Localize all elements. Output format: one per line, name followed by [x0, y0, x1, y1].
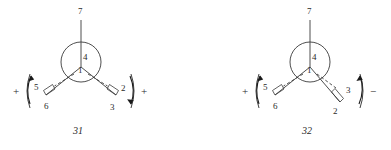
atom-label-2: 2 [121, 83, 126, 93]
wedge-terminus-3 [107, 85, 119, 96]
bond-to-atom-2 [88, 74, 108, 86]
atom-label-6: 6 [273, 101, 278, 111]
bond-to-atom-5 [55, 74, 75, 86]
structure-31: 7 4 1 5 6 2 3 + + 31 [13, 6, 147, 136]
atom-label-6: 6 [44, 101, 49, 111]
right-sign-label: + [141, 85, 147, 97]
atom-label-4: 4 [312, 52, 317, 62]
right-sign-label: − [370, 85, 376, 97]
structure-caption-32: 32 [301, 125, 312, 136]
figure-canvas: 7 4 1 5 6 2 3 + + 31 [0, 0, 391, 150]
atom-label-7: 7 [307, 6, 312, 16]
atom-label-1: 1 [307, 65, 312, 75]
atom-label-2: 2 [333, 106, 338, 116]
left-sign-label: + [13, 85, 19, 97]
atom-label-7: 7 [78, 6, 83, 16]
structure-32: 7 4 1 5 6 3 2 + − 32 [242, 6, 376, 136]
bond-to-atom-5 [284, 74, 304, 86]
wedge-terminus-6 [273, 85, 285, 96]
structure-caption-31: 31 [72, 125, 83, 136]
atom-label-4: 4 [83, 52, 88, 62]
stereochemistry-figure: 7 4 1 5 6 2 3 + + 31 [0, 0, 391, 150]
left-sign-label: + [242, 85, 248, 97]
atom-label-3: 3 [110, 102, 115, 112]
atom-label-1: 1 [78, 65, 83, 75]
wedge-terminus-6 [44, 85, 56, 96]
wedge-terminus-2 [332, 89, 344, 103]
atom-label-5: 5 [34, 82, 39, 92]
atom-label-3: 3 [346, 85, 351, 95]
atom-label-5: 5 [263, 82, 268, 92]
